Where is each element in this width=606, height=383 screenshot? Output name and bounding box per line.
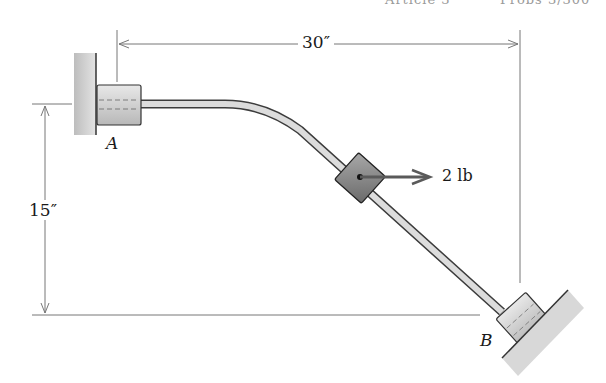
header-fragment-right: Probs 3/300 [500, 0, 590, 7]
curved-rod [140, 104, 502, 312]
collar-a [97, 85, 141, 125]
force-label: 2 lb [442, 166, 473, 185]
dimension-vertical [32, 104, 480, 315]
point-label-b: B [480, 330, 493, 350]
dimension-label-vertical: 15″ [25, 200, 61, 220]
wall-support-a [74, 53, 96, 135]
point-label-a: A [106, 133, 118, 153]
dimension-horizontal [117, 30, 520, 283]
dimension-label-horizontal: 30″ [298, 32, 334, 52]
header-fragment-left: Article 3 [385, 0, 451, 7]
diagram-canvas: Article 3 Probs 3/300 30″ 15″ A B 2 lb [0, 0, 606, 383]
